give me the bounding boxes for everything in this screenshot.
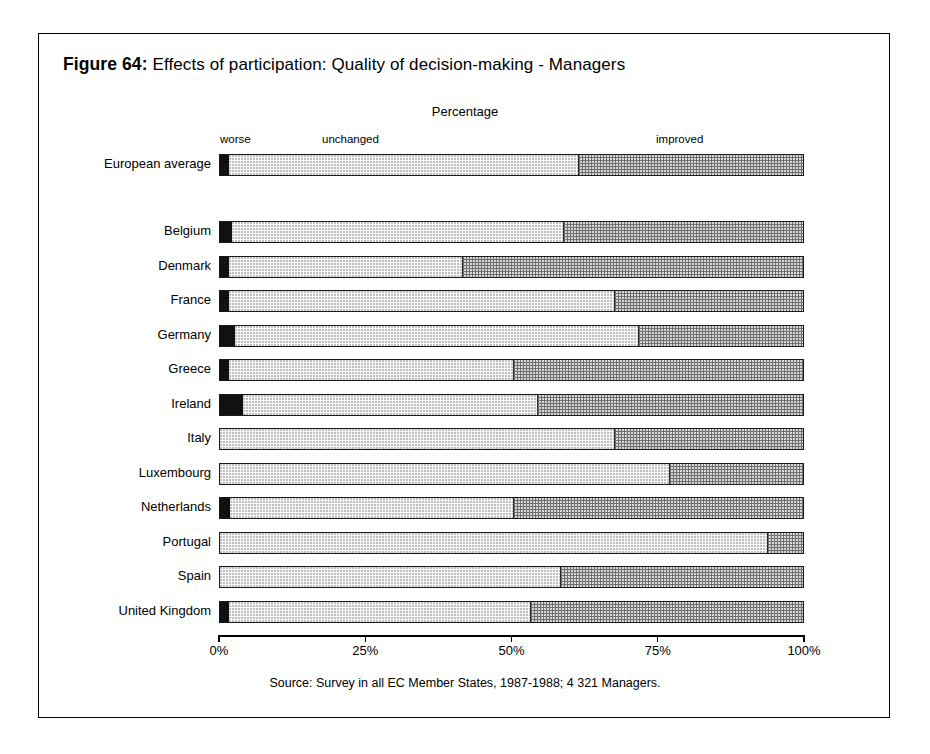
bar-segment-improved — [514, 498, 803, 518]
bar-segment-unchanged — [229, 291, 615, 311]
bar-row-label: France — [39, 292, 211, 307]
stacked-bar — [219, 154, 804, 176]
bar-segment-improved — [670, 464, 804, 484]
bar-segment-worse — [220, 291, 229, 311]
bar-segment-unchanged — [220, 429, 615, 449]
bar-segment-unchanged — [229, 155, 579, 175]
bar-row: Belgium — [39, 221, 891, 243]
stacked-bar — [219, 463, 804, 485]
stacked-bar — [219, 566, 804, 588]
bar-segment-improved — [531, 602, 803, 622]
x-axis-tick-label: 50% — [498, 643, 524, 658]
x-axis-tick-label: 0% — [210, 643, 229, 658]
bar-segment-improved — [463, 257, 803, 277]
bar-row: Spain — [39, 566, 891, 588]
bar-row-label: Spain — [39, 568, 211, 583]
bar-row: Netherlands — [39, 497, 891, 519]
bar-segment-improved — [615, 291, 803, 311]
bar-segment-improved — [615, 429, 803, 449]
stacked-bar — [219, 290, 804, 312]
x-axis-tick-label: 100% — [787, 643, 820, 658]
bar-row-label: Germany — [39, 327, 211, 342]
bar-segment-worse — [220, 360, 229, 380]
bar-segment-improved — [538, 395, 803, 415]
figure-frame: Figure 64: Effects of participation: Qua… — [38, 33, 890, 718]
bar-row-label: Luxembourg — [39, 465, 211, 480]
stacked-bar — [219, 221, 804, 243]
bar-row-label: Greece — [39, 361, 211, 376]
bar-segment-unchanged — [220, 567, 561, 587]
bar-segment-improved — [561, 567, 803, 587]
bar-row: Denmark — [39, 256, 891, 278]
bar-row-label: United Kingdom — [39, 603, 211, 618]
bar-row: Italy — [39, 428, 891, 450]
bar-segment-improved — [639, 326, 803, 346]
bar-segment-improved — [768, 533, 803, 553]
bar-segment-unchanged — [235, 326, 639, 346]
bar-segment-worse — [220, 395, 243, 415]
stacked-bar — [219, 325, 804, 347]
bar-segment-worse — [220, 498, 230, 518]
bar-segment-unchanged — [229, 257, 463, 277]
bar-row-label: Belgium — [39, 223, 211, 238]
bar-row: France — [39, 290, 891, 312]
bar-segment-unchanged — [229, 360, 514, 380]
stacked-bar — [219, 428, 804, 450]
bar-segment-worse — [220, 326, 235, 346]
bar-row: Ireland — [39, 394, 891, 416]
bar-segment-improved — [514, 360, 803, 380]
stacked-bar — [219, 532, 804, 554]
bar-segment-unchanged — [243, 395, 537, 415]
bar-row: Portugal — [39, 532, 891, 554]
bar-row: European average — [39, 154, 891, 176]
bar-row-label: Ireland — [39, 396, 211, 411]
x-axis-tick-label: 75% — [645, 643, 671, 658]
bar-segment-unchanged — [220, 464, 670, 484]
bar-segment-unchanged — [229, 602, 531, 622]
bar-row: Luxembourg — [39, 463, 891, 485]
x-axis-tick — [218, 635, 219, 642]
bar-row-label: Netherlands — [39, 499, 211, 514]
stacked-bar — [219, 601, 804, 623]
bar-segment-unchanged — [220, 533, 768, 553]
bar-segment-worse — [220, 257, 229, 277]
bar-row: Germany — [39, 325, 891, 347]
x-axis-tick-label: 25% — [352, 643, 378, 658]
x-axis-tick — [657, 635, 658, 642]
bar-segment-improved — [564, 222, 803, 242]
bar-segment-worse — [220, 155, 229, 175]
stacked-bar — [219, 359, 804, 381]
stacked-bar — [219, 497, 804, 519]
bar-row-label: Denmark — [39, 258, 211, 273]
x-axis-tick — [803, 635, 804, 642]
bar-segment-unchanged — [230, 498, 513, 518]
bar-row: Greece — [39, 359, 891, 381]
bar-row-label: European average — [39, 156, 211, 171]
bar-row-label: Portugal — [39, 534, 211, 549]
stacked-bar — [219, 394, 804, 416]
x-axis-tick — [365, 635, 366, 642]
source-note: Source: Survey in all EC Member States, … — [39, 676, 891, 690]
bar-segment-worse — [220, 222, 232, 242]
stacked-bar — [219, 256, 804, 278]
plot-area: European averageBelgiumDenmarkFranceGerm… — [39, 34, 891, 719]
bar-segment-unchanged — [232, 222, 564, 242]
bar-segment-worse — [220, 602, 229, 622]
bar-row-label: Italy — [39, 430, 211, 445]
bar-segment-improved — [579, 155, 803, 175]
bar-row: United Kingdom — [39, 601, 891, 623]
x-axis-tick — [511, 635, 512, 642]
